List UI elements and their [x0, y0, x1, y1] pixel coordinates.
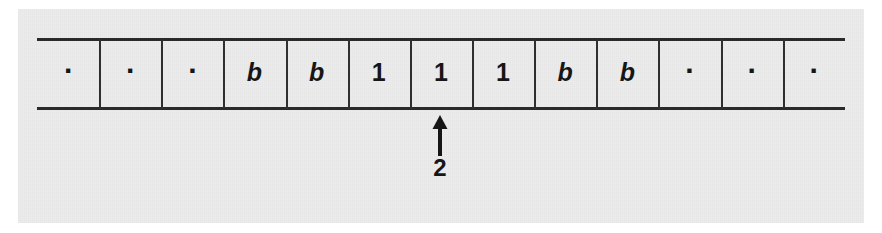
tape-cell-symbol: .: [747, 48, 755, 78]
tape-cell-symbol: b: [309, 60, 324, 85]
tape-cell[interactable]: b: [286, 38, 348, 110]
tape-cell-symbol: 1: [372, 60, 386, 85]
tape-cell-symbol: 1: [434, 60, 448, 85]
tape-cell[interactable]: b: [223, 38, 285, 110]
tape-cell-symbol: b: [247, 60, 262, 85]
arrow-up-icon: [409, 112, 471, 156]
tape-cell-symbol: .: [64, 48, 72, 78]
tape-cell[interactable]: .: [783, 38, 845, 110]
tape-cell-head[interactable]: 1: [410, 38, 472, 110]
tape-cell[interactable]: b: [534, 38, 596, 110]
tape-cell-symbol: .: [685, 48, 693, 78]
tape-cell[interactable]: .: [721, 38, 783, 110]
tape-cell[interactable]: .: [99, 38, 161, 110]
tape-cell-symbol: .: [188, 48, 196, 78]
tape-cell-symbol: .: [810, 48, 818, 78]
tape-cell-symbol: b: [558, 60, 573, 85]
tape-cell-symbol: .: [126, 48, 134, 78]
tape-cell[interactable]: .: [161, 38, 223, 110]
figure-scan: . . . b b 1 1 1 b: [0, 0, 882, 233]
tape: . . . b b 1 1 1 b: [37, 38, 845, 110]
tape-cell[interactable]: 1: [348, 38, 410, 110]
tape-cell-symbol: 1: [496, 60, 510, 85]
tape-cell[interactable]: b: [596, 38, 658, 110]
tape-cell[interactable]: 1: [472, 38, 534, 110]
tape-head-label: 2: [409, 156, 471, 180]
tape-cell[interactable]: .: [658, 38, 720, 110]
tape-cell-symbol: b: [620, 60, 635, 85]
tape-head-pointer: 2: [409, 112, 471, 190]
tape-cell[interactable]: .: [37, 38, 99, 110]
tape-cell-list: . . . b b 1 1 1 b: [37, 38, 845, 110]
